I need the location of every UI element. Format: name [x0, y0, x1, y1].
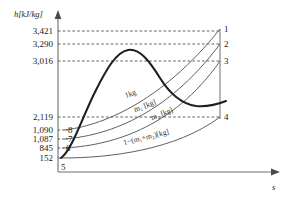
point-label-1: 1: [224, 24, 229, 34]
x-axis-label: s: [272, 182, 276, 192]
chart-canvas: h[kJ/kg] s 3,421 3,290 3,016 2,119 1,090…: [0, 0, 290, 198]
y-tick-3421: 3,421: [33, 26, 53, 36]
point-label-4: 4: [224, 112, 229, 122]
end-point-label-group: 1 2 3 4: [224, 24, 229, 122]
start-point-label-group: 8 7 6 5: [61, 125, 73, 172]
axis-group: [55, 10, 280, 175]
y-axis-arrowhead: [55, 10, 62, 19]
y-tick-label-group: 3,421 3,290 3,016 2,119 1,090 1,087 845 …: [33, 26, 54, 163]
curve-label-m2: m₂ [kg]: [149, 105, 174, 122]
mollier-hs-diagram: h[kJ/kg] s 3,421 3,290 3,016 2,119 1,090…: [0, 0, 290, 198]
y-tick-3016: 3,016: [33, 56, 54, 66]
x-axis-arrowhead: [271, 169, 280, 176]
y-axis-label: h[kJ/kg]: [14, 9, 43, 19]
point-label-5: 5: [61, 162, 66, 172]
curve-label-remainder: 1−(m₁+m₂)[kg]: [122, 127, 169, 147]
y-tick-2119: 2,119: [33, 112, 53, 122]
point-label-6: 6: [66, 143, 71, 153]
y-tick-152: 152: [40, 153, 54, 163]
curve-label-1kg: 1kg: [123, 87, 137, 100]
y-tick-845: 845: [40, 143, 54, 153]
point-label-2: 2: [224, 39, 229, 49]
point-label-3: 3: [224, 56, 229, 66]
y-tick-3290: 3,290: [33, 39, 54, 49]
series-curve-m1: [64, 44, 220, 139]
